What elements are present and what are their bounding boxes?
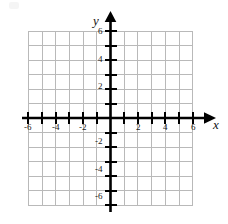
x-tick-label-5: 6	[191, 123, 196, 132]
y-axis-label: y	[93, 14, 99, 27]
coordinate-grid-graphic	[0, 0, 228, 224]
x-tick-label-4: 4	[163, 123, 168, 132]
x-tick-label-3: 2	[136, 123, 141, 132]
y-tick-label-0: 6	[98, 27, 103, 36]
x-axis-label: x	[213, 118, 219, 131]
y-tick-label-3: -2	[95, 137, 103, 146]
y-tick-label-5: -6	[95, 192, 103, 201]
x-tick-label-0: -6	[24, 123, 32, 132]
y-tick-label-1: 4	[98, 55, 103, 64]
coordinate-plane-figure: -6-4-2246 642-2-4-6 x y	[0, 0, 228, 224]
y-axis-line	[105, 11, 117, 212]
y-tick-label-2: 2	[98, 82, 103, 91]
y-tick-label-4: -4	[95, 165, 103, 174]
x-tick-label-2: -2	[79, 123, 87, 132]
x-tick-label-1: -4	[52, 123, 60, 132]
